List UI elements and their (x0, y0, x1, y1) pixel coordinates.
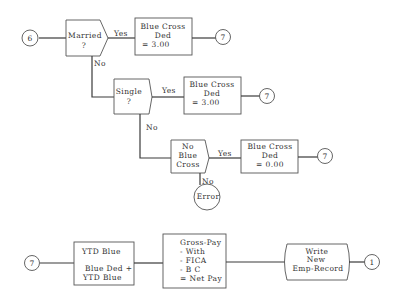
decision-label: ? (127, 97, 131, 106)
no-label: No (146, 123, 158, 132)
yes-label: Yes (161, 86, 176, 95)
process-label: Blue Cross (140, 22, 185, 31)
process-ytd-blue: YTD Blue Blue Ded + YTD Blue (74, 242, 134, 285)
connector-label: 7 (29, 259, 34, 268)
yes-label: Yes (113, 29, 128, 38)
connector-7-married: 7 (216, 30, 231, 45)
decision-label: Cross (176, 160, 200, 169)
connector-label: 7 (322, 152, 327, 161)
process-label: YTD Blue (82, 273, 122, 282)
process-label: YTD Blue (81, 247, 121, 256)
process-label: Blue Cross (189, 80, 234, 89)
io-write-record: Write New Emp-Record (285, 244, 350, 280)
process-label: Ded (155, 31, 171, 40)
flowchart: 6 Married ? Yes Blue Cross Ded = 3.00 7 … (0, 0, 403, 303)
process-label: - FICA (180, 256, 207, 265)
process-label: = 0.00 (256, 160, 284, 169)
process-label: = 3.00 (192, 98, 220, 107)
no-line (140, 114, 171, 158)
decision-single: Single ? (114, 79, 152, 114)
decision-label: No (182, 142, 194, 151)
connector-label: 7 (220, 33, 225, 42)
process-noblue-ded: Blue Cross Ded = 0.00 (241, 140, 298, 173)
decision-label: Married (68, 31, 102, 40)
process-label: Ded (204, 89, 220, 98)
io-label: Emp-Record (292, 264, 343, 273)
yes-label: Yes (217, 149, 232, 158)
process-label: Gross-Pay (180, 238, 222, 247)
decision-no-blue-cross: No Blue Cross (171, 140, 209, 173)
connector-7-noblue: 7 (318, 149, 333, 164)
process-label: = Net Pay (180, 274, 222, 283)
no-label: No (94, 59, 106, 68)
process-label: - B C (180, 265, 201, 274)
connector-label: 6 (27, 34, 32, 43)
process-gross-pay: Gross-Pay - With - FICA - B C = Net Pay (163, 234, 226, 288)
connector-label: 1 (369, 258, 374, 267)
terminal-error: Error (194, 184, 220, 210)
error-label: Error (197, 192, 220, 201)
connector-7-entry: 7 (25, 256, 40, 271)
process-single-ded: Blue Cross Ded = 3.00 (184, 77, 241, 114)
io-label: New (307, 255, 326, 264)
process-married-ded: Blue Cross Ded = 3.00 (135, 18, 192, 55)
connector-7-single: 7 (260, 89, 275, 104)
process-label: Blue Ded + (85, 264, 132, 273)
process-label: Blue Cross (247, 142, 292, 151)
decision-label: Single (116, 87, 143, 96)
process-label: Ded (262, 151, 278, 160)
connector-1-end: 1 (365, 255, 380, 270)
decision-label: ? (82, 41, 86, 50)
process-label: - With (180, 247, 205, 256)
decision-married: Married ? (66, 20, 108, 56)
decision-label: Blue (179, 151, 198, 160)
process-label: = 3.00 (142, 40, 170, 49)
connector-6-start: 6 (22, 30, 38, 46)
connector-label: 7 (264, 92, 269, 101)
